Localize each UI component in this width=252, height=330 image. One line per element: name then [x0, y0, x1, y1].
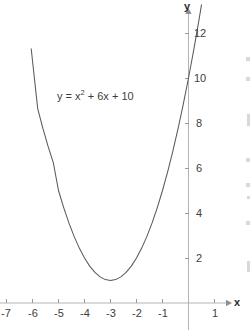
edge-artifact [246, 221, 250, 225]
x-tick-label-neg4: -4 [75, 308, 95, 319]
quadratic-graph-figure: -7 -6 -5 -4 -3 -2 -1 1 2 4 6 8 10 12 x y… [0, 0, 252, 330]
edge-artifact [246, 158, 250, 162]
edge-artifact [246, 183, 250, 187]
x-tick-label-neg7: -7 [0, 308, 16, 319]
edge-artifact [247, 196, 250, 199]
edge-artifact [247, 114, 250, 126]
x-tick-label-neg3: -3 [101, 308, 121, 319]
y-tick-label-4: 4 [196, 208, 202, 219]
edge-artifact [246, 57, 250, 61]
x-tick-label-neg2: -2 [127, 308, 147, 319]
equation-prefix: y = x [57, 90, 81, 102]
x-tick-label-neg5: -5 [49, 308, 69, 319]
y-axis-label: y [184, 1, 190, 12]
parabola-curve [22, 5, 202, 281]
y-tick-label-2: 2 [196, 253, 202, 264]
edge-artifact [247, 261, 250, 272]
x-tick-label-neg6: -6 [23, 308, 43, 319]
x-axis-ticks [7, 299, 215, 303]
x-axis-label: x [234, 297, 240, 308]
y-tick-label-10: 10 [194, 73, 206, 84]
x-tick-label-1: 1 [205, 308, 225, 319]
y-tick-label-12: 12 [194, 28, 206, 39]
equation-suffix: + 6x + 10 [85, 90, 134, 102]
y-tick-label-6: 6 [196, 163, 202, 174]
x-tick-label-neg1: -1 [153, 308, 173, 319]
edge-artifact [246, 77, 250, 81]
x-axis [0, 300, 232, 306]
plot-canvas [0, 0, 252, 330]
y-tick-label-8: 8 [196, 118, 202, 129]
equation-annotation: y = x2 + 6x + 10 [57, 90, 134, 103]
